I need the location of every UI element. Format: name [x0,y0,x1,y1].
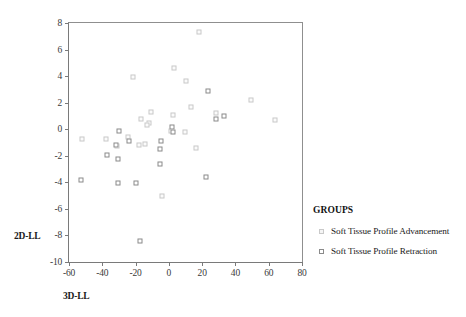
y-axis-tick [65,103,69,104]
data-point [149,109,154,114]
y-axis-tick [65,235,69,236]
data-point [171,66,176,71]
data-point [182,129,187,134]
legend-label-retraction: Soft Tissue Profile Retraction [331,246,437,256]
data-point [126,139,131,144]
x-axis-tick [102,262,103,266]
data-point [204,175,209,180]
y-axis-tick-label: -6 [54,204,62,214]
data-point [249,98,254,103]
x-axis-tick-label: 0 [167,268,172,278]
plot-area: 86420-2-4-6-8-10-60-40-20020406080 [68,22,303,263]
y-axis-tick-label: 0 [57,124,62,134]
y-axis-tick [65,209,69,210]
scatter-plot-figure: 86420-2-4-6-8-10-60-40-20020406080 2D-LL… [0,0,466,317]
data-point [131,75,136,80]
y-axis-tick [65,23,69,24]
x-axis-tick-label: 80 [297,268,306,278]
data-point [160,193,165,198]
y-axis-tick [65,129,69,130]
data-point [170,124,175,129]
y-axis-tick [65,50,69,51]
data-point [142,141,147,146]
y-axis-tick-label: 2 [57,98,62,108]
legend-marker-retraction-icon [319,249,324,254]
y-axis-tick-label: 8 [57,18,62,28]
x-axis-tick [269,262,270,266]
x-axis-tick [169,262,170,266]
legend-marker-advancement-icon [319,229,324,234]
data-point [114,143,119,148]
x-axis-tick [136,262,137,266]
data-point [157,162,162,167]
data-point [171,129,176,134]
data-point [116,180,121,185]
data-point [139,116,144,121]
data-point [137,239,142,244]
data-point [105,153,110,158]
y-axis-tick-label: -10 [50,257,62,267]
x-axis-title: 3D-LL [63,291,89,301]
data-point [196,30,201,35]
legend-label-advancement: Soft Tissue Profile Advancement [331,226,449,236]
y-axis-tick [65,76,69,77]
x-axis-tick [235,262,236,266]
x-axis-tick [302,262,303,266]
data-point [116,157,121,162]
data-point [80,136,85,141]
data-point [171,112,176,117]
y-axis-title: 2D-LL [14,231,40,241]
x-axis-tick-label: 40 [231,268,240,278]
y-axis-tick-label: -8 [54,230,62,240]
data-point [157,147,162,152]
x-axis-tick-label: 60 [264,268,273,278]
legend-item-retraction: Soft Tissue Profile Retraction [319,246,463,256]
data-point [189,104,194,109]
data-point [133,180,138,185]
y-axis-tick [65,182,69,183]
y-axis-tick [65,156,69,157]
data-point [103,136,108,141]
y-axis-tick-label: -4 [54,177,62,187]
data-point [136,143,141,148]
legend-title: GROUPS [313,205,463,215]
x-axis-tick-label: -60 [63,268,75,278]
legend: GROUPS Soft Tissue Profile Advancement S… [313,205,463,266]
data-point [205,88,210,93]
data-point [145,123,150,128]
data-point [78,177,83,182]
data-point [273,117,278,122]
x-axis-tick-label: -20 [130,268,142,278]
data-point [116,128,121,133]
y-axis-tick-label: 6 [57,45,62,55]
data-point [184,79,189,84]
x-axis-tick [202,262,203,266]
data-point [214,116,219,121]
x-axis-tick-label: -40 [96,268,108,278]
x-axis-tick [69,262,70,266]
legend-item-advancement: Soft Tissue Profile Advancement [319,226,463,236]
data-point [221,113,226,118]
data-point [194,145,199,150]
y-axis-tick-label: 4 [57,71,62,81]
data-point [214,111,219,116]
data-point [159,139,164,144]
y-axis-tick-label: -2 [54,151,62,161]
x-axis-tick-label: 20 [198,268,207,278]
